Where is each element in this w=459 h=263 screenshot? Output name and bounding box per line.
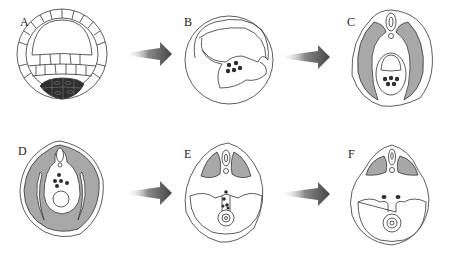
neural-tube (222, 150, 230, 166)
panel-label-c: C (347, 15, 355, 29)
yolk (53, 191, 69, 207)
panel-e-cross-section (185, 143, 263, 242)
panel-c-cross-section (352, 10, 433, 106)
panel-a-blastula (17, 9, 107, 99)
panel-label-a: A (20, 15, 29, 29)
notochord (58, 163, 62, 167)
neural-tube (389, 149, 396, 165)
notochord (224, 169, 229, 174)
neural-tube (386, 13, 396, 31)
arrow-a-to-b (125, 42, 172, 66)
panel-b-gastrula (185, 16, 273, 104)
panel-label-f: F (348, 147, 355, 161)
embryo-diagram: A B (0, 0, 459, 263)
arrow-e-to-f (280, 182, 330, 206)
panel-label-d: D (18, 144, 27, 158)
panel-f-cross-section (351, 145, 429, 245)
arrow-b-to-c (280, 45, 330, 69)
panel-label-e: E (184, 147, 191, 161)
notochord (390, 168, 395, 173)
neural-tube (57, 148, 64, 162)
panel-label-b: B (184, 15, 192, 29)
panel-d-cross-section (20, 141, 103, 237)
notochord (389, 34, 394, 39)
arrow-d-to-e (125, 181, 172, 205)
